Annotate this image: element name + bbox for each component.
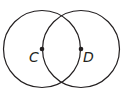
label-c: C [29, 49, 39, 65]
intersecting-circles-diagram: C D [0, 0, 124, 95]
point-c [40, 47, 45, 52]
label-d: D [83, 49, 94, 65]
